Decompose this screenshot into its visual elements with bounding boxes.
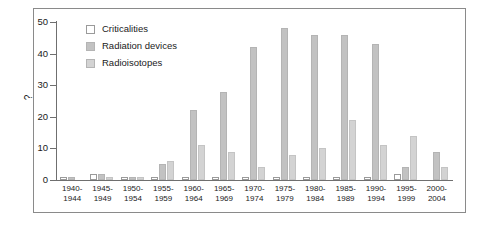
bar: [60, 177, 67, 180]
x-tick-label: 2000-2004: [420, 184, 454, 203]
bar: [410, 136, 417, 180]
bar: [212, 177, 219, 180]
bar: [311, 35, 318, 180]
legend-label: Radioisotopes: [102, 58, 162, 68]
bar-group: [239, 22, 269, 180]
x-tick-label-line: 1940-: [55, 184, 89, 194]
y-axis-title: ?: [23, 95, 34, 101]
bar-group: [422, 22, 452, 180]
legend-swatch: [86, 59, 95, 68]
x-tick-label-line: 1994: [359, 194, 393, 204]
bar: [182, 177, 189, 180]
legend-swatch: [86, 25, 95, 34]
y-tick: [50, 22, 56, 23]
y-tick: [50, 117, 56, 118]
bar: [281, 28, 288, 180]
y-tick-label: 20: [0, 112, 48, 122]
x-tick-label: 1960-1964: [177, 184, 211, 203]
x-tick-label-line: 1990-: [359, 184, 393, 194]
x-tick-label-line: 1980-: [298, 184, 332, 194]
x-tick-label-line: 1954: [116, 194, 150, 204]
x-tick-label-line: 1970-: [238, 184, 272, 194]
x-tick-label-line: 1984: [298, 194, 332, 204]
bar: [242, 177, 249, 180]
y-tick-label: 30: [0, 80, 48, 90]
y-tick-label: 40: [0, 49, 48, 59]
y-tick: [50, 148, 56, 149]
bar-group: [270, 22, 300, 180]
x-tick-label-line: 1985-: [329, 184, 363, 194]
bar: [121, 177, 128, 180]
bar-group: [209, 22, 239, 180]
legend-item[interactable]: Radioisotopes: [86, 56, 177, 70]
bar: [167, 161, 174, 180]
y-tick: [50, 180, 56, 181]
bar: [319, 148, 326, 180]
x-tick-label-line: 1974: [238, 194, 272, 204]
y-tick-label: 10: [0, 143, 48, 153]
bar: [129, 177, 136, 180]
x-tick-label: 1940-1944: [55, 184, 89, 203]
bar-group: [391, 22, 421, 180]
y-tick-label: 50: [0, 17, 48, 27]
bar: [349, 120, 356, 180]
legend-item[interactable]: Criticalities: [86, 22, 177, 36]
x-tick-label-line: 1979: [268, 194, 302, 204]
legend-label: Radiation devices: [102, 41, 177, 51]
legend-swatch: [86, 42, 95, 51]
x-tick-label-line: 1989: [329, 194, 363, 204]
bar: [137, 177, 144, 180]
bar: [341, 35, 348, 180]
bar: [98, 174, 105, 180]
y-tick: [50, 54, 56, 55]
bar: [220, 92, 227, 180]
bar: [151, 177, 158, 180]
x-tick-label-line: 1949: [86, 194, 120, 204]
bar: [90, 174, 97, 180]
x-tick-label: 1950-1954: [116, 184, 150, 203]
bar: [106, 177, 113, 180]
bar: [402, 167, 409, 180]
x-tick-label-line: 1960-: [177, 184, 211, 194]
x-tick-label-line: 1975-: [268, 184, 302, 194]
bar: [250, 47, 257, 180]
bar: [159, 164, 166, 180]
chart-figure: ? 01020304050 1940-19441945-19491950-195…: [0, 0, 480, 229]
bar: [433, 152, 440, 180]
x-tick-label: 1990-1994: [359, 184, 393, 203]
y-tick-label: 0: [0, 175, 48, 185]
bar: [333, 177, 340, 180]
bar: [394, 174, 401, 180]
bar-group: [300, 22, 330, 180]
bar: [364, 177, 371, 180]
bar-group: [330, 22, 360, 180]
x-tick-label-line: 1999: [389, 194, 423, 204]
x-tick-label-line: 1995-: [389, 184, 423, 194]
x-tick-label-line: 1950-: [116, 184, 150, 194]
x-tick-label-line: 1969: [207, 194, 241, 204]
bar-group: [57, 22, 87, 180]
x-tick-label: 1985-1989: [329, 184, 363, 203]
x-tick-label: 1975-1979: [268, 184, 302, 203]
legend-label: Criticalities: [102, 24, 148, 34]
x-tick-label-line: 2000-: [420, 184, 454, 194]
x-tick-label-line: 1945-: [86, 184, 120, 194]
bar: [372, 44, 379, 180]
bar: [289, 155, 296, 180]
x-tick-label-line: 1964: [177, 194, 211, 204]
x-tick-label-line: 1955-: [146, 184, 180, 194]
bar: [258, 167, 265, 180]
bar: [68, 177, 75, 180]
x-tick-label: 1955-1959: [146, 184, 180, 203]
legend-item[interactable]: Radiation devices: [86, 39, 177, 53]
x-tick-label: 1965-1969: [207, 184, 241, 203]
x-tick-label: 1980-1984: [298, 184, 332, 203]
y-tick: [50, 85, 56, 86]
bar: [303, 177, 310, 180]
x-tick-label: 1945-1949: [86, 184, 120, 203]
bar: [441, 167, 448, 180]
bar: [198, 145, 205, 180]
bar: [228, 152, 235, 180]
bar-group: [361, 22, 391, 180]
chart-legend: CriticalitiesRadiation devicesRadioisoto…: [86, 22, 177, 73]
